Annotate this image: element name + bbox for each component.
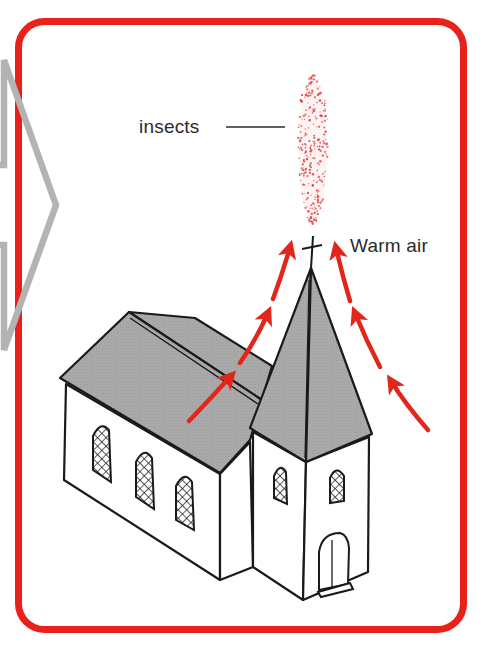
- church-warm-air-diagram: [0, 0, 486, 660]
- tower-door: [318, 533, 353, 597]
- warm-air-label: Warm air: [350, 236, 428, 255]
- tower-window-right: [330, 470, 344, 503]
- nave-window-3: [176, 477, 194, 530]
- insects-label: insects: [139, 117, 200, 136]
- tower-window-left: [274, 468, 287, 504]
